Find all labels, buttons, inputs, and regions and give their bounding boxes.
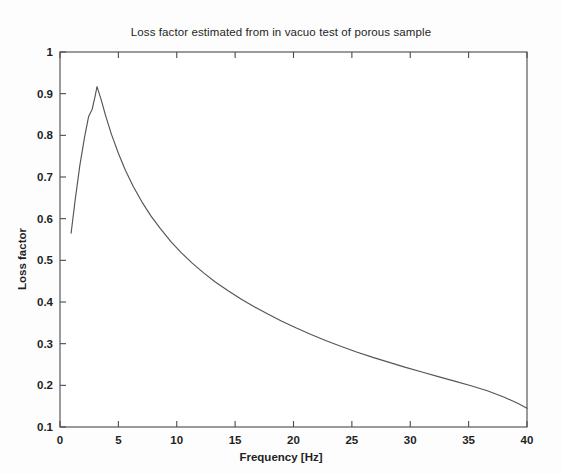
x-tick-label: 5 <box>115 434 122 446</box>
y-tick-label: 0.7 <box>37 171 53 183</box>
plot-background <box>60 52 527 427</box>
x-tick-label: 0 <box>57 434 63 446</box>
x-tick-label: 20 <box>287 434 300 446</box>
x-axis-tick-labels: 0510152025303540 <box>57 434 534 446</box>
y-tick-label: 0.5 <box>37 254 54 266</box>
y-tick-label: 0.2 <box>37 379 53 391</box>
y-tick-label: 0.3 <box>37 338 53 350</box>
y-tick-label: 0.8 <box>37 129 54 141</box>
y-tick-label: 0.4 <box>37 296 54 308</box>
plot-area: 0.10.20.30.40.50.60.70.80.91 05101520253… <box>0 0 562 474</box>
y-tick-label: 1 <box>47 46 54 58</box>
x-tick-label: 10 <box>170 434 183 446</box>
y-tick-label: 0.6 <box>37 213 53 225</box>
x-tick-label: 35 <box>462 434 475 446</box>
x-tick-label: 15 <box>229 434 242 446</box>
y-axis-tick-labels: 0.10.20.30.40.50.60.70.80.91 <box>37 46 54 433</box>
y-tick-label: 0.9 <box>37 88 53 100</box>
x-tick-label: 30 <box>404 434 417 446</box>
x-tick-label: 25 <box>345 434 358 446</box>
x-tick-label: 40 <box>521 434 534 446</box>
figure-canvas: Loss factor estimated from in vacuo test… <box>0 0 562 474</box>
y-tick-label: 0.1 <box>37 421 54 433</box>
